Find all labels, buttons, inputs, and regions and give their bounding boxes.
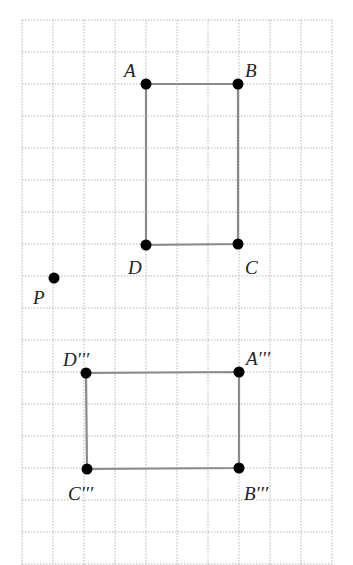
rectangle-image-abcd-triple-prime	[86, 372, 239, 469]
point-c	[233, 239, 244, 250]
point-b-triple-prime	[234, 463, 245, 474]
point-a-triple-prime	[234, 367, 245, 378]
label-b-triple-prime: B′′′	[244, 483, 269, 504]
label-b: B	[245, 60, 257, 81]
point-d	[141, 240, 152, 251]
label-d-triple-prime: D′′′	[62, 349, 90, 370]
label-c: C	[245, 257, 258, 278]
label-c-triple-prime: C′′′	[68, 483, 94, 504]
labels: ABCDA′′′B′′′C′′′D′′′P	[32, 60, 271, 504]
label-a-triple-prime: A′′′	[244, 348, 271, 369]
label-p: P	[32, 287, 45, 308]
transformation-diagram: ABCDA′′′B′′′C′′′D′′′P	[0, 0, 353, 565]
point-p	[49, 273, 60, 284]
rectangle-abcd	[146, 84, 238, 245]
label-a: A	[122, 60, 136, 81]
point-a	[141, 79, 152, 90]
point-b	[233, 79, 244, 90]
label-d: D	[127, 257, 142, 278]
point-c-triple-prime	[82, 464, 93, 475]
